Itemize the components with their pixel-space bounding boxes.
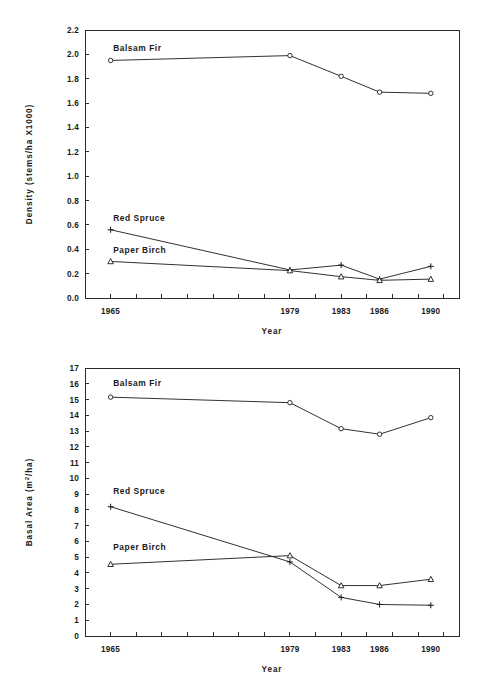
x-axis-title: Year bbox=[262, 327, 283, 336]
y-tick-label: 2 bbox=[74, 600, 79, 609]
axis-frame-rect bbox=[85, 30, 459, 298]
plot-frame bbox=[85, 368, 459, 636]
series-polyline bbox=[111, 507, 431, 606]
series-label-paper-birch: Paper Birch bbox=[113, 245, 166, 255]
marker-circle bbox=[108, 395, 112, 399]
y-tick-label: 17 bbox=[69, 364, 79, 373]
series-label-red-spruce: Red Spruce bbox=[113, 486, 165, 496]
series-polyline bbox=[111, 261, 431, 280]
x-tick-label: 1986 bbox=[370, 307, 389, 316]
y-tick-label: 7 bbox=[74, 522, 79, 531]
x-tick-label: 1979 bbox=[280, 645, 299, 654]
y-tick-label: 1.0 bbox=[67, 172, 79, 181]
density-chart-figure: 0.00.20.40.60.81.01.21.41.61.82.02.21965… bbox=[0, 0, 485, 350]
x-tick-label: 1979 bbox=[280, 307, 299, 316]
marker-circle bbox=[108, 58, 112, 62]
y-tick-label: 2.2 bbox=[67, 26, 79, 35]
y-tick-label: 2.0 bbox=[67, 50, 79, 59]
marker-circle bbox=[429, 415, 433, 419]
y-tick-label: 9 bbox=[74, 490, 79, 499]
y-tick-label: 5 bbox=[74, 553, 79, 562]
x-tick-label: 1983 bbox=[332, 307, 351, 316]
y-tick-label: 14 bbox=[69, 411, 79, 420]
marker-circle bbox=[429, 91, 433, 95]
y-axis-title: Basal Area (m2/ha) bbox=[24, 458, 34, 546]
series-label-balsam-fir: Balsam Fir bbox=[113, 43, 162, 53]
marker-circle bbox=[339, 426, 343, 430]
plot-frame bbox=[85, 30, 459, 298]
y-axis-title: Density (stems/ha X1000) bbox=[25, 104, 34, 224]
y-tick-label: 6 bbox=[74, 537, 79, 546]
y-tick-label: 0 bbox=[74, 632, 79, 641]
y-tick-label: 3 bbox=[74, 585, 79, 594]
marker-circle bbox=[377, 432, 381, 436]
series-label-red-spruce: Red Spruce bbox=[113, 213, 165, 223]
x-tick-label: 1983 bbox=[332, 645, 351, 654]
x-tick-label: 1990 bbox=[421, 307, 440, 316]
marker-circle bbox=[377, 90, 381, 94]
y-tick-label: 1.4 bbox=[67, 123, 79, 132]
y-axis-ticks: 0.00.20.40.60.81.01.21.41.61.82.02.2 bbox=[67, 26, 89, 303]
y-tick-label: 10 bbox=[69, 474, 79, 483]
y-axis-ticks: 01234567891011121314151617 bbox=[69, 364, 89, 641]
x-axis-title: Year bbox=[262, 665, 283, 674]
y-tick-label: 0.0 bbox=[67, 294, 79, 303]
y-tick-label: 1.6 bbox=[67, 99, 79, 108]
y-tick-label: 0.8 bbox=[67, 197, 79, 206]
y-tick-label: 12 bbox=[69, 443, 79, 452]
basal-area-chart-canvas: 0123456789101112131415161719651979198319… bbox=[0, 350, 485, 697]
y-tick-label: 13 bbox=[69, 427, 79, 436]
y-tick-label: 1 bbox=[74, 616, 79, 625]
marker-circle bbox=[288, 53, 292, 57]
x-tick-label: 1986 bbox=[370, 645, 389, 654]
x-tick-label: 1965 bbox=[101, 645, 120, 654]
x-axis-ticks: 19651979198319861990 bbox=[101, 294, 444, 316]
marker-triangle bbox=[428, 576, 434, 581]
series-paper-birch: Paper Birch bbox=[108, 542, 434, 588]
series-label-paper-birch: Paper Birch bbox=[113, 542, 166, 552]
axis-frame-rect bbox=[85, 368, 459, 636]
y-tick-label: 1.2 bbox=[67, 148, 79, 157]
basal-area-chart-figure: 0123456789101112131415161719651979198319… bbox=[0, 350, 485, 697]
density-chart-canvas: 0.00.20.40.60.81.01.21.41.61.82.02.21965… bbox=[0, 0, 485, 350]
x-tick-label: 1965 bbox=[101, 307, 120, 316]
series-balsam-fir: Balsam Fir bbox=[108, 43, 433, 96]
marker-circle bbox=[288, 400, 292, 404]
series-polyline bbox=[111, 56, 431, 94]
series-polyline bbox=[111, 397, 431, 434]
y-tick-label: 1.8 bbox=[67, 75, 79, 84]
series-balsam-fir: Balsam Fir bbox=[108, 378, 433, 436]
x-axis-ticks: 19651979198319861990 bbox=[101, 632, 444, 654]
y-tick-label: 8 bbox=[74, 506, 79, 515]
series-label-balsam-fir: Balsam Fir bbox=[113, 378, 162, 388]
y-tick-label: 4 bbox=[74, 569, 79, 578]
y-tick-label: 0.2 bbox=[67, 270, 79, 279]
y-tick-label: 16 bbox=[69, 380, 79, 389]
series-paper-birch: Paper Birch bbox=[108, 245, 434, 283]
y-tick-label: 15 bbox=[69, 396, 79, 405]
y-tick-label: 11 bbox=[70, 459, 79, 468]
series-polyline bbox=[111, 556, 431, 586]
y-tick-label: 0.4 bbox=[67, 245, 79, 254]
x-tick-label: 1990 bbox=[421, 645, 440, 654]
y-tick-label: 0.6 bbox=[67, 221, 79, 230]
marker-circle bbox=[339, 74, 343, 78]
